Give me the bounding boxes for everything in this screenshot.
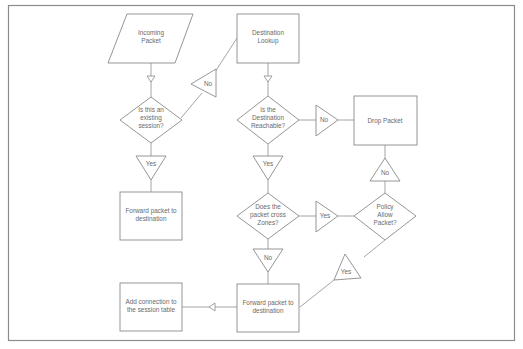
node-label: Destination <box>252 114 284 121</box>
arrow-left-icon <box>209 303 215 311</box>
edge-label-reachable-no: No <box>316 105 338 136</box>
node-destination-lookup[interactable]: Destination Lookup <box>237 14 299 63</box>
connector-yes-to-forward-new <box>300 280 334 307</box>
edge-label: No <box>320 116 329 123</box>
node-label: Does the <box>255 203 281 210</box>
edge-label-policy-yes: Yes <box>334 254 361 280</box>
node-add-connection[interactable]: Add connection to the session table <box>120 283 182 331</box>
connector-no-to-lookup <box>215 38 237 72</box>
node-label: session? <box>138 122 164 129</box>
node-label: packet cross <box>250 211 286 219</box>
node-forward-new[interactable]: Forward packet to destination <box>237 284 299 332</box>
edge-label-cross-yes: Yes <box>316 201 338 232</box>
edge-label: Yes <box>341 268 351 275</box>
edge-label-session-yes: Yes <box>136 156 166 180</box>
node-label: the session table <box>127 306 175 313</box>
edge-label: Yes <box>320 212 330 219</box>
node-drop-packet[interactable]: Drop Packet <box>354 96 417 145</box>
edge-label-session-no: No <box>191 69 216 97</box>
node-label: Zones? <box>257 219 279 226</box>
node-label: existing <box>140 114 162 122</box>
node-label: destination <box>253 307 284 314</box>
edge-label-policy-no: No <box>370 158 400 181</box>
node-forward-existing[interactable]: Forward packet to destination <box>120 192 182 240</box>
edge-label: No <box>381 169 390 176</box>
node-label: Packet <box>141 37 161 44</box>
node-label: Packet? <box>373 219 397 226</box>
edge-label: No <box>204 80 213 87</box>
node-label: Add connection to <box>125 298 177 305</box>
node-label: Drop Packet <box>367 117 402 125</box>
node-label: Incoming <box>138 29 164 37</box>
edge-label: Yes <box>263 160 273 167</box>
node-label: Reachable? <box>251 122 286 129</box>
node-label: Destination <box>252 29 284 36</box>
node-label: Policy <box>376 203 394 211</box>
edge-label: Yes <box>146 160 156 167</box>
connector-policy-yes <box>364 240 385 257</box>
arrow-down-icon <box>264 76 272 82</box>
node-existing-session-decision[interactable]: Is this an existing session? <box>120 97 182 143</box>
arrow-down-icon <box>147 76 155 82</box>
node-label: Is this an <box>138 106 164 113</box>
node-label: Lookup <box>258 37 279 45</box>
triangle-shape <box>334 254 361 280</box>
node-label: Forward packet to <box>242 299 294 307</box>
node-incoming-packet[interactable]: Incoming Packet <box>108 14 193 63</box>
edge-label-cross-no: No <box>253 249 283 272</box>
node-destination-reachable-decision[interactable]: Is the Destination Reachable? <box>237 96 299 144</box>
node-label: Forward packet to <box>125 207 177 215</box>
node-label: Is the <box>260 106 276 113</box>
connector-session-no <box>181 93 202 118</box>
node-cross-zones-decision[interactable]: Does the packet cross Zones? <box>237 193 299 239</box>
edge-label: No <box>264 254 273 261</box>
flowchart-diagram: Incoming Packet Is this an existing sess… <box>0 0 523 349</box>
edge-label-reachable-yes: Yes <box>253 156 283 180</box>
node-label: Allow <box>377 211 393 218</box>
node-policy-allow-decision[interactable]: Policy Allow Packet? <box>354 193 416 240</box>
node-label: destination <box>136 215 167 222</box>
